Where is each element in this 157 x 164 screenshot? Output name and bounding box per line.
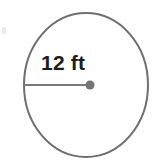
geometry-figure-circle: 12 ft [0, 0, 157, 164]
scan-edge-artifact [2, 27, 6, 34]
radius-measure-label: 12 ft [41, 51, 85, 74]
circle-diagram-canvas: 12 ft [0, 0, 157, 164]
center-point-dot [86, 81, 95, 90]
